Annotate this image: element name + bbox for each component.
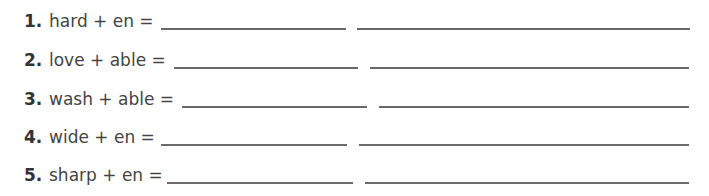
exercise-number: 3. <box>24 89 42 109</box>
exercise-row: 3.wash + able = <box>0 89 709 119</box>
answer-blank-word[interactable] <box>161 144 347 146</box>
exercise-expression: sharp + en = <box>49 165 163 185</box>
exercise-expression: hard + en = <box>49 11 154 31</box>
exercise-number: 1. <box>24 11 42 31</box>
exercise-expression: wash + able = <box>49 89 174 109</box>
exercise-expression: wide + en = <box>49 127 155 147</box>
exercise-expression: love + able = <box>49 50 166 70</box>
answer-blank-sentence[interactable] <box>357 28 690 30</box>
answer-blank-sentence[interactable] <box>370 67 689 69</box>
exercise-row: 1.hard + en = <box>0 11 709 41</box>
answer-blank-sentence[interactable] <box>379 106 689 108</box>
exercise-number: 2. <box>24 50 42 70</box>
answer-blank-word[interactable] <box>161 28 346 30</box>
answer-blank-word[interactable] <box>182 106 367 108</box>
answer-blank-word[interactable] <box>167 182 353 184</box>
answer-blank-sentence[interactable] <box>359 144 689 146</box>
exercise-row: 4.wide + en = <box>0 127 709 157</box>
exercise-number: 4. <box>24 127 42 147</box>
exercise-row: 5.sharp + en = <box>0 165 709 195</box>
answer-blank-word[interactable] <box>174 67 358 69</box>
exercise-number: 5. <box>24 165 42 185</box>
exercise-row: 2.love + able = <box>0 50 709 80</box>
answer-blank-sentence[interactable] <box>365 182 689 184</box>
